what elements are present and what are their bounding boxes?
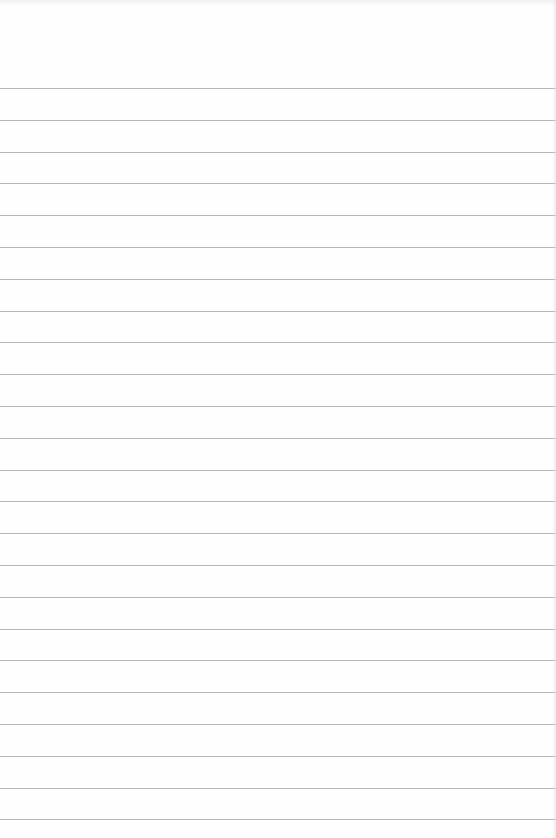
ruled-line bbox=[0, 183, 556, 184]
page-edge bbox=[552, 0, 556, 838]
ruled-line bbox=[0, 152, 556, 153]
ruled-line bbox=[0, 629, 556, 630]
ruled-line bbox=[0, 597, 556, 598]
ruled-line bbox=[0, 470, 556, 471]
ruled-line bbox=[0, 501, 556, 502]
ruled-page bbox=[0, 0, 556, 838]
ruled-line bbox=[0, 215, 556, 216]
ruled-line bbox=[0, 311, 556, 312]
ruled-line bbox=[0, 788, 556, 789]
ruled-line bbox=[0, 374, 556, 375]
ruled-line bbox=[0, 342, 556, 343]
ruled-line bbox=[0, 819, 556, 820]
ruled-line bbox=[0, 533, 556, 534]
ruled-line bbox=[0, 279, 556, 280]
ruled-line bbox=[0, 756, 556, 757]
ruled-line bbox=[0, 88, 556, 89]
ruled-line bbox=[0, 120, 556, 121]
ruled-line bbox=[0, 692, 556, 693]
page-header-area bbox=[0, 0, 556, 6]
ruled-line bbox=[0, 438, 556, 439]
ruled-line bbox=[0, 406, 556, 407]
ruled-line bbox=[0, 565, 556, 566]
ruled-line bbox=[0, 724, 556, 725]
ruled-line bbox=[0, 660, 556, 661]
ruled-line bbox=[0, 247, 556, 248]
